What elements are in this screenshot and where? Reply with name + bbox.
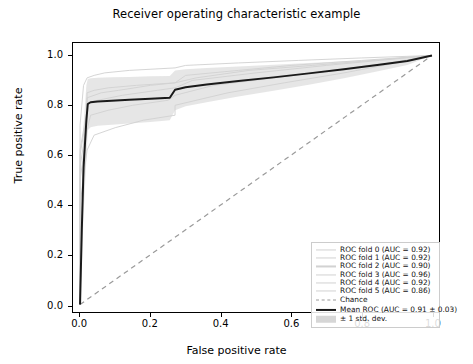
y-axis-label: True positive rate <box>12 36 25 236</box>
y-tick-label-4: 0.8 <box>29 99 63 110</box>
legend-swatch-fold-icon <box>315 262 337 270</box>
legend-label-7: Mean ROC (AUC = 0.91 ± 0.03) <box>340 306 457 314</box>
y-tick-label-1: 0.2 <box>29 249 63 260</box>
y-tick-2 <box>68 205 72 206</box>
y-tick-5 <box>68 55 72 56</box>
x-tick-label-0: 0.0 <box>59 318 99 329</box>
y-tick-0 <box>68 306 72 307</box>
y-tick-label-2: 0.4 <box>29 199 63 210</box>
legend-label-8: ± 1 std. dev. <box>340 315 387 323</box>
x-tick-label-2: 0.4 <box>201 318 241 329</box>
legend-label-6: Chance <box>340 296 368 304</box>
legend-swatch-fold-icon <box>315 287 337 295</box>
legend-item-5: ROC fold 5 (AUC = 0.86) <box>315 287 436 295</box>
legend-swatch-fold-icon <box>315 279 337 287</box>
y-tick-3 <box>68 155 72 156</box>
legend-item-8: ± 1 std. dev. <box>315 314 436 324</box>
x-tick-2 <box>221 313 222 317</box>
legend-swatch-band-icon <box>315 315 337 323</box>
legend-label-5: ROC fold 5 (AUC = 0.86) <box>340 287 430 295</box>
chart-legend: ROC fold 0 (AUC = 0.92)ROC fold 1 (AUC =… <box>311 242 440 328</box>
x-tick-3 <box>291 313 292 317</box>
legend-item-6: Chance <box>315 295 436 305</box>
legend-swatch-chance-icon <box>315 296 337 304</box>
legend-swatch-mean-icon <box>315 306 337 314</box>
legend-item-7: Mean ROC (AUC = 0.91 ± 0.03) <box>315 305 436 315</box>
x-axis-label: False positive rate <box>0 344 473 357</box>
roc-chart-figure: Receiver operating characteristic exampl… <box>0 0 473 364</box>
x-tick-0 <box>79 313 80 317</box>
x-tick-label-1: 0.2 <box>130 318 170 329</box>
y-tick-1 <box>68 255 72 256</box>
y-tick-label-5: 1.0 <box>29 49 63 60</box>
x-tick-1 <box>150 313 151 317</box>
x-tick-label-3: 0.6 <box>271 318 311 329</box>
legend-swatch-fold-icon <box>315 271 337 279</box>
chart-title: Receiver operating characteristic exampl… <box>0 7 473 21</box>
y-tick-label-3: 0.6 <box>29 149 63 160</box>
legend-swatch-fold-icon <box>315 246 337 254</box>
legend-swatch-fold-icon <box>315 254 337 262</box>
y-tick-4 <box>68 105 72 106</box>
y-tick-label-0: 0.0 <box>29 300 63 311</box>
